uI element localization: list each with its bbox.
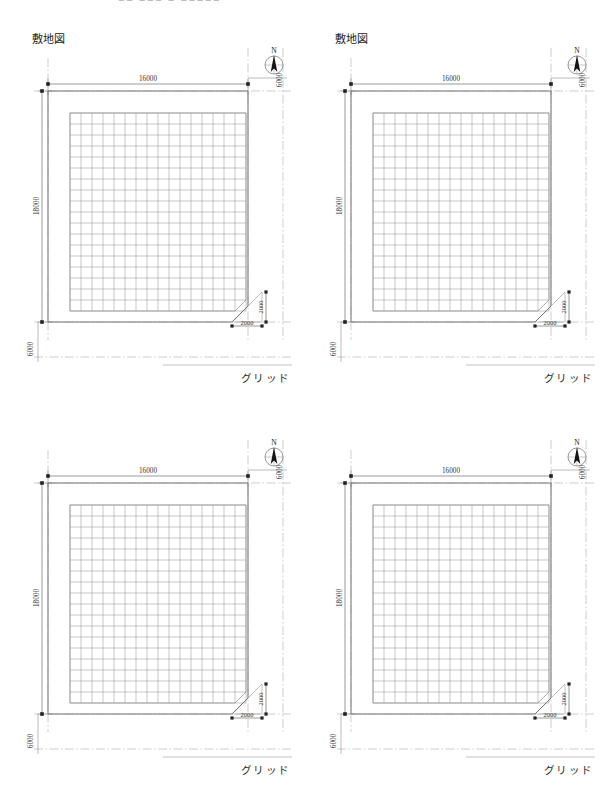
north-arrow-icon: N bbox=[568, 46, 586, 74]
grid-caption-group: グリッド bbox=[163, 365, 292, 384]
panel-top-right: 敷地図 16000 bbox=[303, 0, 606, 392]
dimension-left-18000: 18000 bbox=[33, 481, 44, 716]
panel-bottom-left: 16000 18000 6000 6000 2000 bbox=[0, 392, 303, 784]
site-plan-drawing: 16000 18000 6000 6000 bbox=[0, 0, 303, 392]
dimension-top-16000: 16000 bbox=[349, 467, 553, 478]
grid-caption: グリッド bbox=[544, 372, 593, 384]
dimension-left-18000: 18000 bbox=[336, 481, 347, 716]
dimension-left-18000: 18000 bbox=[336, 89, 347, 324]
north-label: N bbox=[574, 46, 580, 55]
north-arrow-icon: N bbox=[568, 438, 586, 466]
module-grid bbox=[70, 505, 246, 703]
dimension-bottom-6000: 6000 bbox=[330, 733, 338, 748]
drawing-sheet: 敷地図 bbox=[0, 0, 606, 785]
dimension-right-6000: 6000 bbox=[276, 464, 284, 479]
grid-caption: グリッド bbox=[544, 764, 593, 776]
dim-bottom-label: 6000 bbox=[330, 733, 338, 748]
dim-chamfer-h-label: 2000 bbox=[544, 711, 557, 718]
dim-chamfer-v-label: 2000 bbox=[560, 693, 567, 706]
dim-chamfer-v-label: 2000 bbox=[560, 301, 567, 314]
dimension-right-6000: 6000 bbox=[276, 72, 284, 87]
panel-top-left: 敷地図 bbox=[0, 0, 303, 392]
site-plan-drawing: 16000 18000 6000 6000 2000 bbox=[0, 392, 303, 784]
dimension-left-18000: 18000 bbox=[33, 89, 44, 324]
dim-right-label: 6000 bbox=[276, 72, 284, 87]
dimension-right-6000: 6000 bbox=[579, 72, 587, 87]
north-arrow-icon: N bbox=[265, 438, 283, 466]
dim-chamfer-v-label: 2000 bbox=[257, 693, 264, 706]
dimension-top-16000: 16000 bbox=[46, 467, 250, 478]
dim-bottom-label: 6000 bbox=[27, 341, 35, 356]
dim-right-label: 6000 bbox=[579, 464, 587, 479]
dim-chamfer-h-label: 2000 bbox=[241, 711, 254, 718]
dim-right-label: 6000 bbox=[276, 464, 284, 479]
dim-top-label: 16000 bbox=[139, 467, 157, 475]
dimension-bottom-6000: 6000 bbox=[330, 341, 338, 356]
dim-left-label: 18000 bbox=[336, 589, 344, 607]
dimension-bottom-6000: 6000 bbox=[27, 341, 35, 356]
site-plan-drawing: 16000 18000 6000 6000 2000 bbox=[303, 0, 606, 392]
dim-left-label: 18000 bbox=[336, 197, 344, 215]
dim-left-label: 18000 bbox=[33, 197, 41, 215]
module-grid bbox=[70, 113, 246, 311]
dim-bottom-label: 6000 bbox=[330, 341, 338, 356]
dim-top-label: 16000 bbox=[139, 75, 157, 83]
dimension-bottom-6000: 6000 bbox=[27, 733, 35, 748]
grid-caption-group: グリッド bbox=[163, 757, 292, 776]
dim-left-label: 18000 bbox=[33, 589, 41, 607]
dimension-right-6000: 6000 bbox=[579, 464, 587, 479]
north-label: N bbox=[271, 46, 277, 55]
panel-bottom-right: 16000 18000 6000 6000 2000 bbox=[303, 392, 606, 784]
north-label: N bbox=[271, 438, 277, 447]
dim-right-label: 6000 bbox=[579, 72, 587, 87]
dimension-top-16000: 16000 bbox=[349, 75, 553, 86]
dim-top-label: 16000 bbox=[442, 467, 460, 475]
north-arrow-icon: N bbox=[265, 46, 283, 74]
module-grid bbox=[373, 113, 549, 311]
dim-chamfer-h-label: 2000 bbox=[241, 319, 254, 326]
site-plan-drawing: 16000 18000 6000 6000 2000 bbox=[303, 392, 606, 784]
dim-bottom-label: 6000 bbox=[27, 733, 35, 748]
grid-caption: グリッド bbox=[241, 764, 290, 776]
dim-chamfer-h-label: 2000 bbox=[544, 319, 557, 326]
dimension-top-16000: 16000 bbox=[46, 75, 250, 86]
module-grid bbox=[373, 505, 549, 703]
grid-caption-group: グリッド bbox=[466, 365, 595, 384]
north-label: N bbox=[574, 438, 580, 447]
dim-top-label: 16000 bbox=[442, 75, 460, 83]
grid-caption-group: グリッド bbox=[466, 757, 595, 776]
grid-caption: グリッド bbox=[241, 372, 290, 384]
dim-chamfer-v-label: 2000 bbox=[257, 301, 264, 314]
